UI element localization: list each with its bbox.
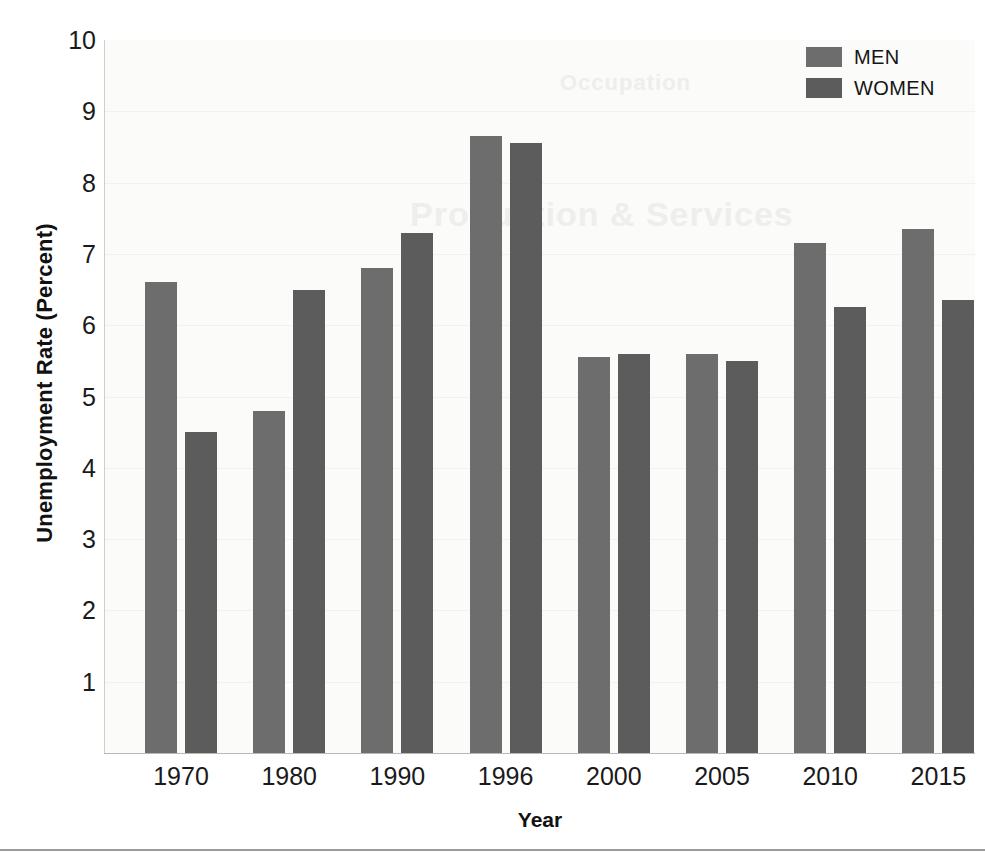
- chart-figure: Production & Services Occupation 1234567…: [0, 0, 985, 859]
- x-tick-label: 2015: [911, 762, 967, 791]
- legend-label-men: MEN: [854, 46, 900, 69]
- x-tick-label: 2010: [802, 762, 858, 791]
- bar-group: [902, 40, 974, 753]
- bar-men-1970: [145, 282, 177, 753]
- bar-group: [794, 40, 866, 753]
- bar-group: [361, 40, 433, 753]
- y-axis-title: Unemployment Rate (Percent): [32, 83, 58, 683]
- x-tick-label: 2000: [586, 762, 642, 791]
- bar-women-1970: [185, 432, 217, 753]
- x-tick-label: 1996: [478, 762, 534, 791]
- bar-groups: [105, 40, 975, 753]
- x-tick-label: 1970: [153, 762, 209, 791]
- page-bottom-rule: [0, 849, 985, 851]
- bar-men-2005: [686, 354, 718, 753]
- bar-women-2005: [726, 361, 758, 753]
- bar-group: [686, 40, 758, 753]
- legend-entry-women: WOMEN: [806, 77, 981, 99]
- y-tick-label: 10: [50, 28, 96, 53]
- x-axis-title: Year: [105, 808, 975, 832]
- bar-women-2015: [942, 300, 974, 753]
- bar-women-1996: [510, 143, 542, 753]
- bar-women-1980: [293, 290, 325, 753]
- bar-men-1990: [361, 268, 393, 753]
- bar-men-2000: [578, 357, 610, 753]
- x-tick-label: 1980: [261, 762, 317, 791]
- bar-men-2010: [794, 243, 826, 753]
- x-axis-line: [104, 753, 975, 754]
- bar-group: [470, 40, 542, 753]
- legend-entry-men: MEN: [806, 46, 981, 68]
- legend-label-women: WOMEN: [854, 77, 935, 100]
- bar-men-1980: [253, 411, 285, 753]
- men-swatch-icon: [806, 47, 842, 67]
- x-tick-label: 2005: [694, 762, 750, 791]
- bar-group: [253, 40, 325, 753]
- bar-women-2000: [618, 354, 650, 753]
- bar-men-1996: [470, 136, 502, 753]
- bar-women-1990: [401, 233, 433, 753]
- bar-group: [145, 40, 217, 753]
- bar-women-2010: [834, 307, 866, 753]
- women-swatch-icon: [806, 78, 842, 98]
- bar-men-2015: [902, 229, 934, 753]
- chart-legend: MEN WOMEN: [806, 46, 981, 108]
- bar-group: [578, 40, 650, 753]
- x-tick-label: 1990: [370, 762, 426, 791]
